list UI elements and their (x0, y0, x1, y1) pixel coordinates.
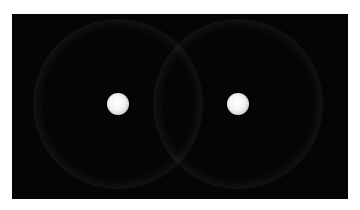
black-canvas (12, 14, 348, 199)
right-light-core (227, 93, 249, 115)
left-light-core (107, 93, 129, 115)
